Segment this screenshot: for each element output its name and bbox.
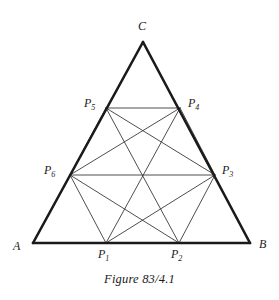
figure-caption: Figure 83/4.1	[0, 272, 279, 287]
vertex-label-A: A	[13, 240, 20, 252]
side-BC	[143, 42, 250, 243]
vertex-label-B-text: B	[259, 237, 266, 251]
diag-P4-P6	[70, 108, 180, 175]
vertex-label-C-text: C	[138, 19, 146, 33]
vertex-label-C: C	[138, 20, 146, 32]
outer-triangle-layer	[33, 42, 250, 243]
side-CA	[33, 42, 143, 243]
hex-P6-P1	[70, 175, 106, 243]
diag-P2-P6	[70, 175, 179, 243]
vertex-label-P5: P5	[84, 97, 95, 112]
hex-P2-P3	[179, 175, 215, 243]
vertex-label-P4: P4	[188, 97, 199, 112]
vertex-label-P3: P3	[222, 164, 233, 179]
vertex-label-P6-subscript: 6	[51, 170, 55, 179]
vertex-label-P1-subscript: 1	[105, 254, 109, 263]
figure-container: A B C P1 P2 P3 P4 P5 P6 Figure 83/4.1	[0, 0, 279, 300]
vertex-label-P2: P2	[171, 248, 182, 263]
vertex-label-P2-subscript: 2	[178, 254, 182, 263]
vertex-label-P3-subscript: 3	[229, 170, 233, 179]
vertex-label-P5-subscript: 5	[91, 103, 95, 112]
diag-P3-P5	[106, 108, 215, 175]
diag-P1-P3	[106, 175, 215, 243]
inner-lines-layer	[70, 108, 215, 243]
vertex-label-P4-subscript: 4	[195, 103, 199, 112]
vertex-label-A-text: A	[13, 239, 20, 253]
vertex-label-P1: P1	[98, 248, 109, 263]
vertex-label-P6: P6	[44, 164, 55, 179]
geometry-canvas	[0, 0, 279, 300]
vertex-label-B: B	[259, 238, 266, 250]
